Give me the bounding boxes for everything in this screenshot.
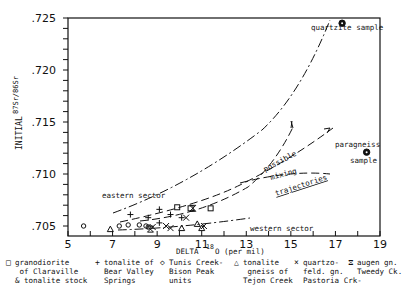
plus-marker-icon: + [93, 258, 102, 267]
legend-item-bear-valley: + tonalite of Bear Valley Springs [93, 258, 154, 285]
x-tick-label: 19 [373, 238, 387, 251]
x-tick-label: 7 [109, 238, 116, 251]
plus-marker-icon [127, 212, 133, 218]
arrowhead-icon [291, 121, 293, 128]
plus-marker-icon [156, 220, 162, 226]
y-axis: .705.710.715.720.725 [32, 12, 69, 233]
x-tick-label: 5 [65, 238, 72, 251]
western-sector-label: western sector [250, 224, 314, 233]
legend-item-tunis-creek: ◇ Tunis Creek- Bison Peak units [158, 258, 223, 285]
diamond-marker-icon: ◇ [158, 258, 167, 267]
triangle-marker-icon [179, 225, 185, 231]
filled-circle-marker-icon [339, 20, 345, 26]
plot-frame [68, 18, 380, 236]
triangle-marker-icon [107, 226, 113, 232]
sample-label: sample [350, 156, 378, 165]
svg-text:87Sr/86Sr: 87Sr/86Sr [12, 76, 20, 114]
x-tick-label: 15 [284, 238, 298, 251]
y-tick-label: .720 [32, 64, 57, 77]
square-marker-icon: □ [4, 258, 13, 267]
eastern-sector-label: eastern sector [102, 191, 166, 200]
middle-trajectory-arrow [120, 128, 333, 222]
x-marker-icon: × [292, 258, 301, 267]
legend: □ granodiorite of Claraville & tonalite … [0, 258, 398, 292]
quartzite-sample-label: quartzite sample [311, 23, 384, 32]
filled-circle-marker-icon [363, 149, 369, 155]
diamond-marker-icon [126, 223, 130, 227]
y-tick-label: .710 [32, 168, 57, 181]
paragneiss-label: paragneiss [335, 140, 380, 149]
x-tick-label: 17 [328, 238, 342, 251]
diamond-marker-icon [137, 223, 141, 227]
plus-marker-icon [156, 206, 162, 212]
hourglass-marker-icon: ⧖ [346, 258, 355, 267]
triangle-marker-icon [194, 221, 200, 227]
legend-item-tejon-creek: △ tonalite gneiss of Tejon Creek [232, 258, 293, 285]
triangle-marker-icon: △ [232, 258, 241, 267]
svg-text:DELTA: DELTA [176, 247, 199, 256]
scatter-plot: .705.710.715.720.725 5791113151719 INITI… [0, 0, 398, 258]
legend-item-tweedy-creek: ⧖ augen gn. Tweedy Ck. [346, 258, 402, 276]
y-tick-label: .715 [32, 116, 57, 129]
y-tick-label: .705 [32, 220, 57, 233]
data-points [81, 20, 369, 232]
x-tick-label: 9 [154, 238, 161, 251]
svg-text:18: 18 [206, 243, 214, 251]
square-marker-icon [208, 206, 213, 211]
y-axis-label: INITIAL 87Sr/86Sr [12, 76, 24, 150]
legend-item-granodiorite: □ granodiorite of Claraville & tonalite … [4, 258, 87, 285]
svg-text:INITIAL: INITIAL [15, 116, 24, 150]
diamond-marker-icon [117, 224, 121, 228]
diamond-marker-icon [81, 224, 85, 228]
y-tick-label: .725 [32, 12, 57, 25]
svg-text:O (per mil): O (per mil) [215, 247, 265, 256]
